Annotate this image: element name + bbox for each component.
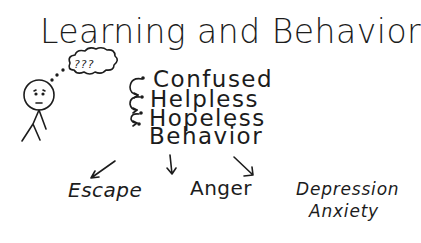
outcome-anger: Anger [190, 178, 252, 198]
outcome-anxiety: Anxiety [309, 203, 379, 220]
outcome-escape: Escape [68, 180, 142, 200]
outcome-depression: Depression [296, 181, 399, 198]
sequence-item-behavior: Behavior [149, 125, 263, 148]
stick-figure-icon [22, 80, 54, 141]
thought-bubble-text: ??? [74, 59, 95, 70]
